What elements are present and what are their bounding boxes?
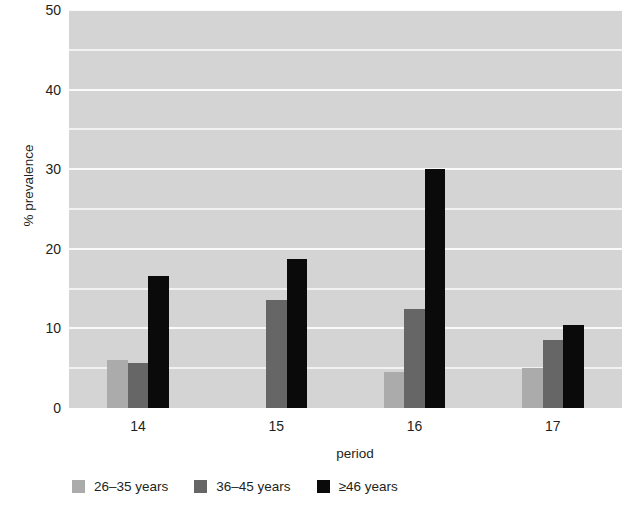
bar	[425, 169, 446, 408]
x-axis-tick-label: 17	[523, 419, 583, 433]
bar	[148, 276, 169, 408]
y-axis-tick-label: 40	[17, 83, 61, 97]
x-axis-title-text: period	[336, 446, 374, 461]
y-axis-tick-label: 50	[17, 3, 61, 17]
legend-item[interactable]: 26–35 years	[72, 480, 168, 494]
legend-swatch-icon	[72, 480, 85, 493]
y-axis-tick-label: 20	[17, 242, 61, 256]
bar	[384, 372, 405, 408]
bar	[522, 368, 543, 408]
x-axis-tick-label: 16	[385, 419, 445, 433]
gridline	[69, 89, 622, 91]
gridline	[69, 208, 622, 210]
bar	[287, 259, 308, 408]
gridline	[69, 168, 622, 170]
bar	[266, 300, 287, 408]
gridline	[69, 128, 622, 130]
legend-item[interactable]: 36–45 years	[194, 480, 290, 494]
x-axis-title: period	[0, 446, 644, 461]
legend-label: 36–45 years	[216, 480, 290, 494]
gridline	[69, 49, 622, 51]
x-axis-tick-label: 14	[108, 419, 168, 433]
bar	[404, 309, 425, 408]
bar	[543, 340, 564, 408]
x-axis-tick-label: 15	[246, 419, 306, 433]
y-axis-tick-label: 0	[17, 401, 61, 415]
y-axis-tick-label: 10	[17, 321, 61, 335]
legend-item[interactable]: ≥46 years	[317, 480, 398, 494]
legend-label: ≥46 years	[339, 480, 398, 494]
chart-legend: 26–35 years36–45 years≥46 years	[72, 480, 398, 494]
bar	[128, 363, 149, 408]
gridline	[69, 248, 622, 250]
bar-chart: % prevalence 01020304050 14151617 period…	[0, 0, 644, 506]
legend-label: 26–35 years	[94, 480, 168, 494]
legend-swatch-icon	[317, 480, 330, 493]
bar	[563, 325, 584, 408]
bar	[107, 360, 128, 408]
legend-swatch-icon	[194, 480, 207, 493]
x-axis-baseline	[69, 408, 622, 409]
gridline	[69, 10, 622, 11]
y-axis-tick-label: 30	[17, 162, 61, 176]
plot-area	[69, 10, 622, 408]
